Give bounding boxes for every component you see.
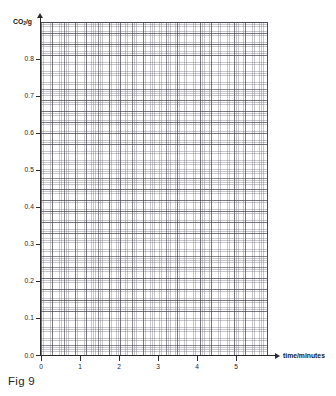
x-axis-tick-label: 0 [36, 363, 46, 370]
y-axis-tick-label: 0.2 [25, 277, 34, 284]
y-axis-tick-mark [36, 318, 42, 319]
x-axis-arrow-icon [275, 353, 280, 359]
x-axis-line [41, 355, 277, 356]
y-axis-tick-mark [36, 133, 42, 134]
graph-figure: 0.00.10.20.30.40.50.60.70.8 012345 CO2/g… [0, 0, 336, 396]
y-axis-tick-label: 0.7 [25, 92, 34, 99]
x-axis-tick-label: 5 [231, 363, 241, 370]
y-axis-tick-label: 0.6 [25, 129, 34, 136]
y-axis-tick-label: 0.4 [25, 203, 34, 210]
x-axis-tick-label: 1 [75, 363, 85, 370]
y-axis-tick-mark [36, 281, 42, 282]
x-axis-tick-mark [41, 356, 42, 361]
y-axis-line [40, 16, 41, 356]
x-axis-tick-label: 2 [114, 363, 124, 370]
y-axis-title-subscript: 2 [23, 21, 26, 26]
plot-border-top [41, 22, 268, 23]
figure-caption: Fig 9 [8, 375, 35, 388]
x-axis-tick-mark [197, 356, 198, 361]
figure-page: 0.00.10.20.30.40.50.60.70.8 012345 CO2/g… [0, 0, 336, 396]
x-axis-tick-mark [236, 356, 237, 361]
x-axis-tick-mark [158, 356, 159, 361]
y-axis-title: CO2/g [13, 18, 32, 27]
y-axis-tick-mark [36, 59, 42, 60]
x-axis-tick-label: 3 [153, 363, 163, 370]
y-axis-tick-mark [36, 170, 42, 171]
y-axis-tick-mark [36, 96, 42, 97]
y-axis-title-suffix: /g [26, 18, 32, 25]
y-axis-tick-label: 0.0 [25, 352, 34, 359]
y-axis-tick-label: 0.5 [25, 166, 34, 173]
plot-border-right [267, 22, 268, 356]
x-axis-tick-label: 4 [192, 363, 202, 370]
y-axis-title-prefix: CO [13, 18, 23, 25]
y-axis-tick-mark [36, 207, 42, 208]
y-axis-tick-label: 0.3 [25, 240, 34, 247]
y-axis-tick-label: 0.8 [25, 55, 34, 62]
plot-area-graph-paper [41, 22, 268, 356]
x-axis-tick-mark [119, 356, 120, 361]
x-axis-tick-mark [80, 356, 81, 361]
y-axis-tick-mark [36, 244, 42, 245]
y-axis-arrow-icon [37, 13, 43, 18]
y-axis-tick-label: 0.1 [25, 314, 34, 321]
x-axis-title: time/minutes [283, 352, 325, 360]
